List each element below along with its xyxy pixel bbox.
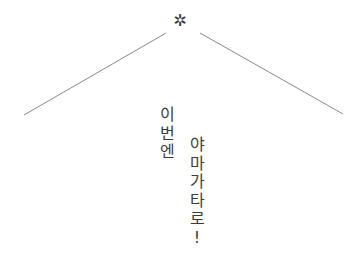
char: 타 xyxy=(190,192,205,211)
vertical-text-right: 야 마 가 타 로 ! xyxy=(188,136,206,247)
char: 마 xyxy=(190,155,205,174)
char: 이 xyxy=(160,106,175,125)
right-diagonal-line xyxy=(200,33,343,114)
vertical-text-left: 이 번 엔 xyxy=(158,106,176,162)
char: 번 xyxy=(160,125,175,144)
roof-lines xyxy=(0,0,361,272)
char: 야 xyxy=(190,136,205,155)
asterisk-ornament-icon: ✲ xyxy=(172,12,188,30)
char: ! xyxy=(194,229,200,248)
char: 가 xyxy=(190,173,205,192)
char: 로 xyxy=(190,210,205,229)
left-diagonal-line xyxy=(24,33,166,115)
char: 엔 xyxy=(160,143,175,162)
